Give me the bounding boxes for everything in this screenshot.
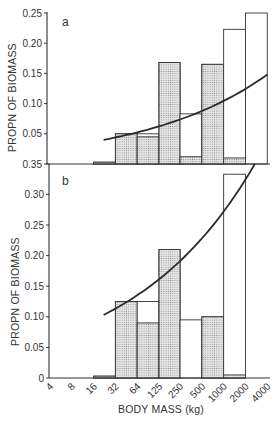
panel-b: 00.050.100.150.200.250.30 48163264125250… [9, 164, 273, 415]
x-tick-label: 500 [188, 380, 208, 400]
x-tick-label: 125 [145, 380, 165, 400]
panel-a-label: a [62, 15, 69, 29]
panel-b-label: b [62, 174, 69, 188]
x-tick-label: 2000 [227, 380, 251, 404]
figure: 0.350.050.100.150.200.25 a PROPN OF BIOM… [0, 0, 280, 422]
panel-a-y-ticks: 0.350.050.100.150.200.25 [23, 8, 47, 170]
panel-b-bars [94, 174, 246, 378]
bar-shaded [115, 134, 137, 164]
panel-b-y-ticks: 00.050.100.150.200.250.30 [25, 164, 49, 384]
x-tick-label: 64 [127, 380, 143, 396]
bar-open [224, 29, 246, 164]
bar-open [224, 174, 246, 378]
x-tick-label: 4 [44, 380, 56, 392]
panel-b-y-axis-label: PROPN OF BIOMASS [9, 237, 21, 346]
y-tick-label: 0.10 [25, 311, 45, 322]
y-tick-label: 0.30 [25, 189, 45, 200]
bar-shaded [180, 157, 202, 164]
x-axis-label: BODY MASS (kg) [118, 403, 204, 415]
y-tick-label: 0.20 [25, 250, 45, 261]
y-tick-label: 0.25 [25, 220, 45, 231]
panel-a-bars [94, 13, 268, 164]
bar-shaded [137, 323, 159, 378]
bar-shaded [202, 64, 224, 164]
y-tick-label: 0 [38, 373, 44, 384]
bar-shaded [202, 317, 224, 378]
x-tick-label: 250 [166, 380, 186, 400]
y-tick-label: 0.15 [25, 281, 45, 292]
y-tick-label: 0.35 [23, 159, 43, 170]
bar-open [245, 13, 267, 164]
bar-shaded [159, 63, 180, 164]
x-tick-label: 1000 [206, 380, 230, 404]
x-tick-label: 8 [66, 380, 78, 392]
y-tick-label: 0.25 [23, 8, 43, 19]
y-tick-label: 0.20 [23, 38, 43, 49]
panel-a: 0.350.050.100.150.200.25 a PROPN OF BIOM… [6, 8, 270, 170]
panel-a-y-axis-label: PROPN OF BIOMASS [6, 43, 18, 152]
bar-shaded [224, 158, 246, 164]
y-tick-label: 0.10 [23, 98, 43, 109]
bar-shaded [115, 302, 137, 379]
bar-open [180, 320, 202, 378]
bar-shaded [159, 249, 180, 378]
y-tick-label: 0.05 [25, 342, 45, 353]
x-tick-label: 4000 [249, 380, 273, 404]
y-tick-label: 0.15 [23, 68, 43, 79]
x-axis-ticks: 48163264125250500100020004000 [44, 380, 273, 404]
x-tick-label: 16 [83, 380, 99, 396]
y-tick-label: 0.05 [23, 128, 43, 139]
x-tick-label: 32 [105, 380, 121, 396]
bar-shaded [137, 137, 159, 164]
